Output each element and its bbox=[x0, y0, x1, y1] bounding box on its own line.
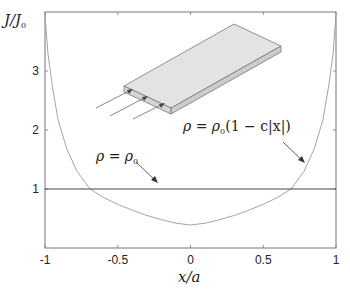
x-axis-label: x/a bbox=[178, 268, 200, 286]
current-arrow-2 bbox=[110, 97, 146, 116]
y-tick-label: 3 bbox=[32, 64, 39, 78]
x-tick-label: -0.5 bbox=[107, 253, 128, 267]
y-axis-label: J/J0 bbox=[1, 11, 26, 30]
slab-inset-illustration bbox=[96, 24, 281, 119]
current-arrow-1 bbox=[96, 90, 131, 108]
y-tick-label: 2 bbox=[32, 123, 39, 137]
annotation-graded-resistivity: ρ = ρ0(1 − c|x|) bbox=[182, 118, 291, 136]
y-tick-label: 1 bbox=[32, 182, 39, 196]
x-tick-label: -1 bbox=[40, 253, 51, 267]
x-tick-label: 0 bbox=[187, 253, 194, 267]
annotation-uniform-resistivity: ρ = ρ0 bbox=[95, 148, 138, 166]
x-tick-label: 1 bbox=[333, 253, 340, 267]
x-tick-label: 0.5 bbox=[255, 253, 272, 267]
chart: -1-0.500.51 123 J/J0 x/a ρ = ρ0 ρ = ρ0(1… bbox=[0, 0, 350, 296]
current-arrow-3 bbox=[133, 104, 163, 119]
